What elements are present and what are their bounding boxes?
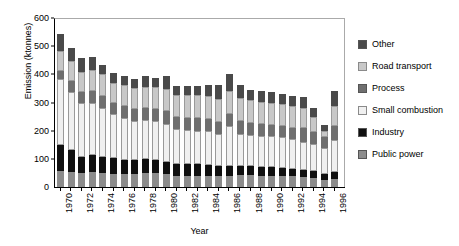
bar-segment [110,158,117,173]
bar-segment [289,128,296,139]
x-tick-mark [81,187,82,191]
bar-segment [110,114,117,159]
bar-segment [142,108,149,120]
bar-segment [184,164,191,175]
bar-segment [152,87,159,109]
bar-segment [121,85,128,106]
y-tick-label: 200 [0,126,54,136]
x-tick-label: 1990 [275,193,285,213]
bar-segment [78,58,85,72]
bar-1990 [268,92,275,187]
legend-swatch-icon [358,150,367,159]
x-tick-mark [155,187,156,191]
bar-segment [310,117,317,131]
bar-1988 [247,90,254,187]
bar-segment [237,121,244,134]
bar-segment [173,164,180,175]
bar-segment [121,174,128,187]
bar-segment [110,83,117,103]
bar-segment [215,176,222,187]
bar-segment [321,137,328,149]
bar-segment [268,136,275,167]
legend-label: Other [372,39,395,49]
bar-segment [78,103,85,157]
bar-segment [184,130,191,164]
bar-segment [89,91,96,103]
bar-segment [110,174,117,187]
bar-1996 [331,91,338,187]
bar-segment [321,148,328,173]
bar-segment [152,109,159,121]
bar-segment [268,176,275,187]
legend-item-4: Industry [358,121,443,143]
x-tick-mark [323,187,324,191]
bar-segment [279,168,286,176]
bar-segment [215,85,222,99]
x-axis-title: Year [0,226,399,236]
legend-swatch-icon [358,84,367,93]
bar-1993 [300,97,307,187]
bar-segment [226,176,233,187]
bar-segment [289,96,296,106]
bar-segment [215,99,222,122]
bar-segment [300,128,307,142]
legend-swatch-icon [358,62,367,71]
bar-segment [121,76,128,85]
bar-segment [173,86,180,95]
emission-stacked-bar-chart: Emission (ktonnes) 0100200300400500600 1… [0,0,459,246]
bar-segment [131,79,138,88]
bar-segment [289,106,296,128]
bar-segment [310,108,317,118]
bar-segment [78,72,85,92]
bar-1977 [131,79,138,187]
bar-segment [205,96,212,119]
bar-segment [279,94,286,104]
bar-segment [78,92,85,103]
bar-segment [89,57,96,70]
y-tick-label: 600 [0,13,54,23]
bar-segment [331,172,338,179]
x-tick-mark [91,187,92,191]
x-tick-label: 1994 [317,193,327,213]
bar-segment [131,88,138,109]
plot-inner [55,19,344,187]
bar-segment [184,95,191,118]
bar-segment [247,123,254,135]
bar-segment [163,162,170,175]
bar-segment [331,106,338,126]
y-tick-mark [51,18,54,19]
bar-segment [99,74,106,96]
bar-segment [121,106,128,118]
x-tick-label: 1974 [106,193,116,213]
bar-segment [57,51,64,71]
y-tick-mark [51,46,54,47]
bar-segment [57,71,64,79]
bar-segment [110,103,117,114]
bar-segment [173,129,180,164]
legend-swatch-icon [358,128,367,137]
bar-segment [142,159,149,173]
x-tick-mark [123,187,124,191]
x-tick-mark [186,187,187,191]
bar-segment [300,97,307,108]
bar-segment [68,92,75,151]
legend-label: Small combustion [372,105,443,115]
x-tick-label: 1996 [338,193,348,213]
bar-segment [163,124,170,162]
bar-segment [331,179,338,187]
bar-segment [300,108,307,128]
bar-1983 [194,86,201,187]
bar-1985 [215,85,222,187]
bar-1982 [184,86,191,187]
bar-segment [268,92,275,103]
bar-segment [78,157,85,173]
x-tick-label: 1980 [169,193,179,213]
bar-segment [142,120,149,159]
x-tick-mark [144,187,145,191]
bar-segment [247,100,254,123]
bar-segment [89,172,96,187]
bar-segment [131,109,138,121]
bar-1971 [68,48,75,187]
bar-segment [237,85,244,98]
bar-segment [99,108,106,157]
